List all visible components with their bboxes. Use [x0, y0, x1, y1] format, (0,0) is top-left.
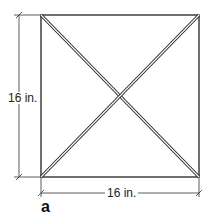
width-label: 16 in.: [105, 187, 138, 199]
height-label: 16 in.: [8, 92, 37, 104]
figure-label: a: [41, 198, 50, 216]
